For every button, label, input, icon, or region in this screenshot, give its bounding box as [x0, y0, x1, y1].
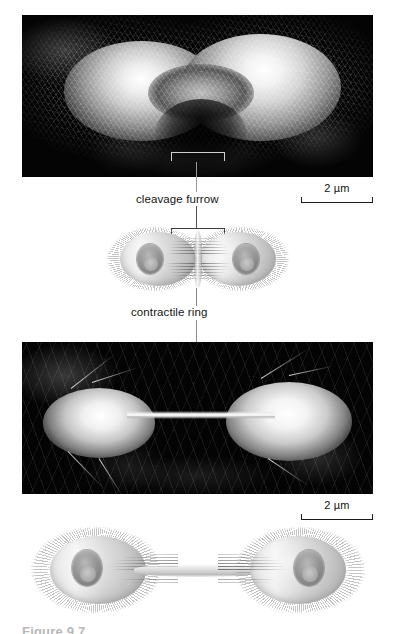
figure-caption: Figure 9.7 [22, 624, 85, 634]
contractile-ring-leader-upper [196, 288, 197, 306]
scale-bar-top-rule [301, 196, 373, 203]
nucleus-left [137, 244, 163, 274]
figure-root: 2 µm cleavage furrow contractile ring [0, 0, 394, 634]
cleavage-furrow-leader-lower [196, 206, 197, 228]
daughter-cell-right-sem [226, 382, 352, 461]
cleavage-furrow-bracket-photo [171, 152, 225, 161]
nucleus-right [233, 244, 259, 274]
contractile-ring-constriction [194, 230, 202, 288]
scale-bar-top: 2 µm [301, 182, 373, 203]
nucleolus-left-bottom [80, 566, 96, 583]
scale-bar-lower-label: 2 µm [301, 499, 373, 511]
daughter-cell-left-sem [43, 388, 155, 458]
lower-micrograph [22, 342, 373, 494]
middle-illustration [110, 228, 286, 290]
scale-bar-top-label: 2 µm [301, 182, 373, 194]
nucleolus-right [240, 257, 254, 271]
cleavage-furrow-leader-upper [196, 162, 197, 192]
nucleus-left-bottom [72, 550, 102, 586]
nucleolus-left [144, 257, 158, 271]
label-contractile-ring: contractile ring [131, 306, 207, 318]
nucleolus-right-bottom [302, 566, 318, 583]
scale-bar-lower-rule [301, 513, 373, 520]
label-cleavage-furrow: cleavage furrow [136, 193, 219, 205]
cytoplasmic-bridge [127, 411, 274, 419]
bottom-illustration [22, 524, 374, 616]
scale-bar-lower: 2 µm [301, 499, 373, 520]
midbody-filaments-right [218, 554, 290, 584]
nucleus-right-bottom [294, 550, 324, 586]
